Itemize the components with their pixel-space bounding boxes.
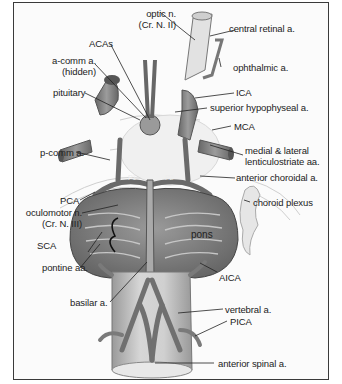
label-pons: pons	[191, 229, 213, 240]
pituitary-shape	[140, 60, 160, 135]
label-line: (hidden)	[40, 66, 96, 77]
basilar-artery-shape	[146, 180, 154, 280]
label-optic-nerve: optic n. (Cr. N. II)	[118, 8, 176, 30]
label-anterior-spinal-artery: anterior spinal a.	[218, 358, 286, 369]
label-pituitary: pituitary	[53, 87, 85, 98]
label-aica: AICA	[219, 272, 241, 283]
label-superior-hypophyseal-artery: superior hypophyseal a.	[210, 102, 309, 113]
label-lenticulostriate-arteries: medial & lateral lenticulostriate aa.	[245, 145, 320, 167]
label-oculomotor-nerve: oculomotor n. (Cr. N. III)	[20, 207, 82, 229]
label-line: (Cr. N. III)	[20, 218, 82, 229]
label-p1: P1	[128, 172, 136, 183]
label-line: a-comm a.	[40, 55, 96, 66]
label-line: lenticulostriate aa.	[245, 156, 320, 167]
label-p2: P2	[165, 172, 173, 183]
label-basilar-artery: basilar a.	[70, 297, 108, 308]
label-pica: PICA	[230, 316, 252, 327]
label-ophthalmic-artery: ophthalmic a.	[233, 62, 288, 73]
label-a-comm-artery: a-comm a. (hidden)	[40, 55, 96, 77]
label-vertebral-artery: vertebral a.	[225, 304, 271, 315]
label-choroid-plexus: choroid plexus	[253, 197, 313, 208]
label-line: medial & lateral	[245, 145, 320, 156]
label-line: oculomotor n.	[20, 207, 82, 218]
label-central-retinal-artery: central retinal a.	[229, 23, 295, 34]
label-pontine-arteries: pontine aa.	[42, 262, 88, 273]
label-p-comm-artery: p-comm a.	[40, 147, 84, 158]
label-line: (Cr. N. II)	[118, 19, 176, 30]
label-acas: ACAs	[89, 38, 113, 49]
label-sca: SCA	[37, 240, 56, 251]
label-pca: PCA	[60, 195, 79, 206]
optic-nerve-shape	[185, 12, 222, 80]
label-mca: MCA	[234, 121, 255, 132]
label-line: optic n.	[118, 8, 176, 19]
label-ica: ICA	[236, 87, 252, 98]
label-anterior-choroidal-artery: anterior choroidal a.	[236, 172, 318, 183]
